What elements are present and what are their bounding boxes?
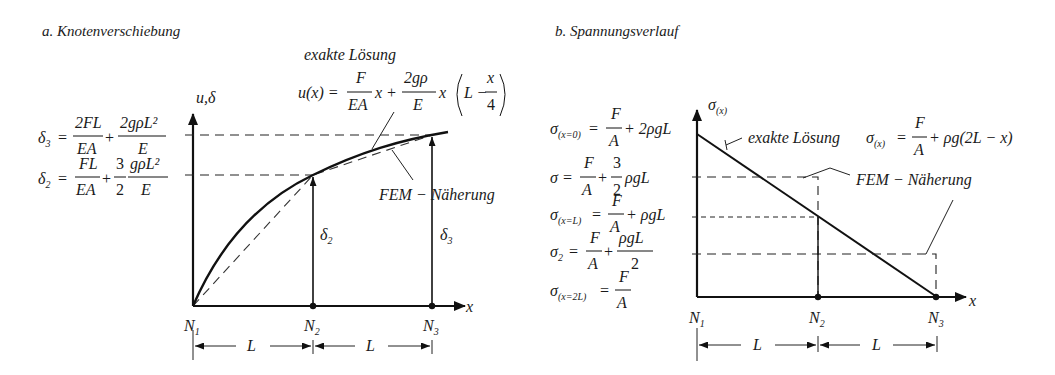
- node-n2-dot: [815, 294, 821, 300]
- svg-text:2: 2: [631, 255, 639, 272]
- svg-text:σ: σ: [550, 169, 559, 186]
- svg-text:x: x: [438, 84, 446, 101]
- svg-text:A: A: [913, 141, 924, 158]
- svg-text:=: =: [592, 206, 601, 223]
- svg-text:+: +: [598, 169, 607, 186]
- exact-solution-label: exakte Lösung: [304, 46, 396, 64]
- exact-solution-curve: [193, 132, 448, 306]
- node-n1-label: N1: [688, 309, 705, 329]
- diagram-canvas: a. Knotenverschiebung u,δ x δ2 δ3 N1 N2 …: [0, 0, 1055, 375]
- delta3-label: δ3: [440, 226, 452, 246]
- node-n2-dot: [310, 303, 316, 309]
- x-axis-label: x: [968, 292, 976, 309]
- dimension-lines: [697, 328, 937, 361]
- formula-sigma-xL: σ(x=L) = F A + ρgL: [550, 192, 665, 235]
- node-n3-dot: [429, 303, 435, 309]
- node-n1-label: N1: [183, 317, 200, 337]
- svg-text:A: A: [587, 255, 598, 272]
- exact-leader-line: [726, 138, 742, 145]
- span-label-1: L: [246, 337, 256, 354]
- exact-formula-u: u(x) = F EA x + 2gρ E x L − x 4: [298, 69, 505, 116]
- span-label-1: L: [752, 336, 762, 353]
- fem-leader-line: [392, 150, 413, 180]
- svg-text:δ3: δ3: [38, 129, 50, 149]
- fem-step-2: [692, 254, 936, 297]
- svg-text:x +: x +: [374, 84, 397, 101]
- svg-text:L −: L −: [463, 84, 487, 101]
- span-label-2: L: [871, 336, 881, 353]
- panel-a: a. Knotenverschiebung u,δ x δ2 δ3 N1 N2 …: [38, 23, 505, 360]
- stress-formula-list: σ(x=0) = F A + 2ρgL σ = F A + 3 2 ρgL: [550, 105, 671, 311]
- panel-b: b. Spannungsverlauf σ(x) x N1 N2 N3: [550, 23, 1013, 361]
- node-n3-dot: [933, 294, 939, 300]
- svg-text:+ ρg(2L − x): + ρg(2L − x): [929, 129, 1013, 147]
- svg-text:3: 3: [613, 154, 621, 171]
- node-n3-label: N3: [927, 309, 944, 329]
- svg-text:F: F: [618, 268, 629, 285]
- svg-text:=: =: [563, 169, 572, 186]
- svg-text:ρgL: ρgL: [624, 169, 650, 187]
- svg-text:2gρ: 2gρ: [404, 69, 428, 87]
- svg-text:F: F: [611, 192, 622, 209]
- svg-text:F: F: [914, 114, 925, 131]
- fem-leader-bottom: [926, 200, 953, 254]
- dimension-lines: [193, 330, 432, 360]
- exact-leader-line: [372, 112, 394, 149]
- svg-text:F: F: [355, 69, 366, 86]
- svg-text:+ 2ρgL: + 2ρgL: [624, 120, 671, 138]
- svg-text:4: 4: [487, 96, 495, 113]
- formula-sigma-x2L: σ(x=2L) = F A: [550, 268, 631, 311]
- svg-text:=: =: [600, 282, 609, 299]
- svg-text:gρL²: gρL²: [130, 155, 161, 173]
- x-axis-label: x: [465, 298, 473, 315]
- span-label-2: L: [365, 337, 375, 354]
- delta2-label: δ2: [320, 226, 332, 246]
- svg-text:+ ρgL: + ρgL: [626, 206, 665, 224]
- svg-text:ρgL: ρgL: [618, 229, 644, 247]
- svg-text:σ(x=L): σ(x=L): [550, 206, 582, 227]
- svg-text:EA: EA: [347, 96, 368, 113]
- svg-text:δ2: δ2: [38, 170, 50, 190]
- node-n2-label: N2: [303, 317, 320, 337]
- formula-sigma-x0: σ(x=0) = F A + 2ρgL: [550, 105, 671, 149]
- panel-b-title: b. Spannungsverlauf: [555, 23, 680, 39]
- svg-text:=: =: [569, 243, 578, 260]
- svg-text:+: +: [604, 243, 613, 260]
- svg-text:σ2: σ2: [550, 243, 563, 263]
- svg-text:F: F: [610, 105, 621, 122]
- svg-text:2: 2: [116, 181, 124, 198]
- svg-text:u(x) =: u(x) =: [298, 84, 339, 102]
- delta2-formula: δ2 = FL EA + 3 2 gρL² E: [38, 155, 168, 198]
- svg-text:+: +: [102, 170, 111, 187]
- fem-leader-top: [803, 168, 850, 178]
- exact-formula-sigma: σ(x) = F A + ρg(2L − x): [866, 114, 1013, 158]
- svg-text:σ(x): σ(x): [866, 129, 886, 150]
- svg-text:=: =: [897, 129, 906, 146]
- formula-sigma-fem1: σ = F A + 3 2 ρgL: [550, 154, 650, 198]
- node-n2-label: N2: [808, 309, 825, 329]
- node-n3-label: N3: [422, 317, 439, 337]
- delta3-formula: δ3 = 2FL EA + 2gρL² E: [38, 114, 166, 157]
- svg-text:2gρL²: 2gρL²: [120, 114, 159, 132]
- fem-label: FEM − Näherung: [378, 186, 495, 204]
- svg-text:3: 3: [116, 155, 124, 172]
- y-axis-label: u,δ: [196, 89, 216, 106]
- svg-text:x: x: [486, 69, 494, 86]
- svg-text:E: E: [412, 96, 423, 113]
- svg-text:σ(x=2L): σ(x=2L): [550, 282, 587, 303]
- exact-stress-line: [697, 134, 937, 297]
- svg-text:F: F: [589, 229, 600, 246]
- exact-solution-label: exakte Lösung: [748, 129, 840, 147]
- svg-text:FL: FL: [78, 155, 98, 172]
- fem-step-1: [692, 177, 818, 297]
- panel-a-title: a. Knotenverschiebung: [42, 23, 181, 39]
- svg-text:=: =: [58, 129, 67, 146]
- svg-text:F: F: [583, 154, 594, 171]
- svg-text:E: E: [140, 181, 151, 198]
- svg-text:=: =: [58, 170, 67, 187]
- y-axis-label: σ(x): [708, 96, 728, 117]
- svg-text:2FL: 2FL: [75, 114, 102, 131]
- svg-text:+: +: [105, 129, 114, 146]
- svg-text:A: A: [608, 132, 619, 149]
- formula-sigma-2: σ2 = F A + ρgL 2: [550, 229, 653, 272]
